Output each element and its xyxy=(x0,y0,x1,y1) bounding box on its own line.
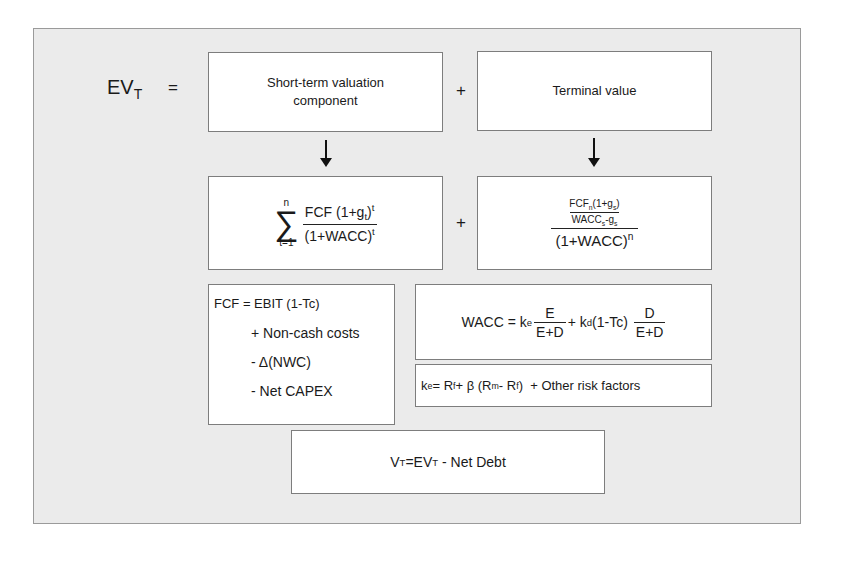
fcf-line-3: - Δ(NWC) xyxy=(251,354,311,370)
terminal-fraction: FCFn(1+gs) WACCs-gs (1+WACC)n xyxy=(551,198,637,249)
fcf-line-1: FCF = EBIT (1-Tc) xyxy=(214,296,320,311)
terminal-formula-box: FCFn(1+gs) WACCs-gs (1+WACC)n xyxy=(477,176,712,270)
short-term-component-box: Short-term valuation component xyxy=(208,52,443,132)
terminal-value-label: Terminal value xyxy=(553,82,637,100)
fcf-line-2: + Non-cash costs xyxy=(251,325,360,341)
short-term-label: Short-term valuation component xyxy=(251,74,401,110)
summation: n ∑ t=1 xyxy=(274,198,298,248)
fcf-line-4: - Net CAPEX xyxy=(251,383,333,399)
terminal-value-box: Terminal value xyxy=(477,51,712,131)
plus-sign-bottom: + xyxy=(456,213,466,233)
short-term-fraction: FCF (1+gt)t (1+WACC)t xyxy=(303,202,377,243)
sigma-icon: ∑ xyxy=(274,208,298,238)
equity-value-box: VT=EVT - Net Debt xyxy=(291,430,605,494)
fcf-box: FCF = EBIT (1-Tc) + Non-cash costs - Δ(N… xyxy=(208,284,395,425)
cost-of-equity-box: ke= Rf + β (Rm- Rf) + Other risk factors xyxy=(415,364,712,407)
short-term-formula-box: n ∑ t=1 FCF (1+gt)t (1+WACC)t xyxy=(208,176,443,270)
equals-sign: = xyxy=(168,78,178,98)
wacc-box: WACC = ke EE+D + kd(1-Tc) DE+D xyxy=(415,284,712,360)
arrow-down-right-icon xyxy=(593,138,595,165)
ev-label: EVT xyxy=(107,76,142,102)
arrow-down-left-icon xyxy=(325,140,327,165)
plus-sign-top: + xyxy=(456,81,466,101)
